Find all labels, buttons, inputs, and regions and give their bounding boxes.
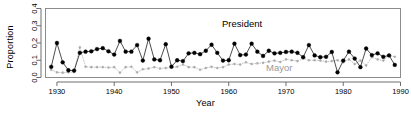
- data-point: [245, 61, 247, 63]
- data-point: [278, 51, 282, 55]
- data-point: [285, 58, 287, 60]
- data-point: [336, 59, 338, 61]
- data-point: [49, 65, 53, 69]
- data-point: [301, 55, 305, 59]
- data-point: [193, 66, 195, 68]
- data-point: [313, 54, 317, 58]
- data-point: [135, 43, 139, 47]
- data-point: [96, 66, 98, 68]
- data-point: [125, 66, 127, 68]
- data-point: [359, 65, 363, 69]
- data-point: [239, 64, 241, 66]
- data-point: [158, 58, 162, 62]
- y-axis-title: Proportion: [5, 15, 15, 79]
- data-point: [354, 63, 356, 65]
- series-label-president: President: [222, 18, 262, 29]
- data-point: [192, 51, 196, 55]
- data-point: [102, 66, 104, 68]
- data-point: [233, 42, 237, 46]
- data-point: [307, 43, 311, 47]
- data-point: [251, 63, 253, 65]
- data-point: [95, 47, 99, 51]
- data-point: [50, 69, 52, 71]
- data-point: [331, 60, 333, 62]
- data-point: [228, 64, 230, 66]
- series-president: [49, 37, 396, 74]
- x-tick-label: 1960: [220, 87, 237, 96]
- data-point: [377, 58, 379, 60]
- data-point: [84, 50, 88, 54]
- data-point: [314, 59, 316, 61]
- data-point: [147, 37, 151, 41]
- data-point: [267, 49, 271, 53]
- data-point: [119, 72, 121, 74]
- y-axis: 0.00.10.20.30.4: [30, 3, 41, 82]
- data-point: [255, 50, 259, 54]
- data-point: [129, 50, 133, 54]
- data-point: [72, 69, 76, 73]
- data-point: [181, 59, 185, 63]
- data-point: [112, 53, 116, 57]
- data-point: [250, 42, 254, 46]
- data-point: [347, 50, 351, 54]
- data-point: [221, 59, 225, 63]
- x-tick-label: 1980: [335, 87, 352, 96]
- data-point: [198, 52, 202, 56]
- data-point: [142, 68, 144, 70]
- data-point: [284, 50, 288, 54]
- data-point: [353, 57, 357, 61]
- data-point: [365, 64, 367, 66]
- data-point: [164, 42, 168, 46]
- data-point: [348, 58, 350, 60]
- data-point: [394, 56, 396, 58]
- data-point: [290, 50, 294, 54]
- data-point: [382, 60, 384, 62]
- data-point: [148, 67, 150, 69]
- data-point: [387, 54, 391, 58]
- data-point: [67, 68, 71, 72]
- data-point: [79, 46, 81, 48]
- data-point: [159, 67, 161, 69]
- data-point: [393, 63, 397, 67]
- x-tick-label: 1950: [163, 87, 180, 96]
- x-tick-label: 1930: [49, 87, 66, 96]
- data-point: [210, 43, 214, 47]
- series-label-mayor: Mayor: [266, 62, 292, 73]
- data-point: [152, 57, 156, 61]
- data-point: [211, 66, 213, 68]
- data-point: [165, 67, 167, 69]
- y-tick-label: 0.2: [30, 38, 39, 48]
- data-point: [325, 61, 327, 63]
- data-point: [238, 53, 242, 57]
- data-point: [296, 60, 298, 62]
- x-axis: 1930194019501960197019801990: [49, 82, 409, 96]
- data-point: [170, 65, 174, 69]
- data-point: [233, 63, 235, 65]
- y-tick-label: 0.4: [30, 3, 39, 13]
- data-point: [341, 59, 345, 63]
- data-point: [273, 51, 277, 55]
- data-point: [308, 59, 310, 61]
- data-point: [199, 69, 201, 71]
- data-point: [175, 58, 179, 62]
- data-point: [187, 51, 191, 55]
- y-tick-label: 0.0: [30, 72, 39, 82]
- data-point: [330, 50, 334, 54]
- x-tick-label: 1940: [106, 87, 123, 96]
- data-point: [227, 58, 231, 62]
- data-point: [124, 50, 128, 54]
- data-point: [153, 66, 155, 68]
- data-point: [62, 72, 64, 74]
- y-tick-label: 0.1: [30, 55, 39, 65]
- data-point: [85, 66, 87, 68]
- data-point: [296, 51, 300, 55]
- data-point: [141, 59, 145, 63]
- data-point: [222, 66, 224, 68]
- data-point: [107, 66, 109, 68]
- chart-figure: 0.00.10.20.30.4 193019401950196019701980…: [0, 0, 411, 115]
- data-point: [89, 49, 93, 53]
- x-tick-label: 1970: [278, 87, 295, 96]
- data-point: [130, 66, 132, 68]
- data-point: [205, 67, 207, 69]
- data-point: [381, 55, 385, 59]
